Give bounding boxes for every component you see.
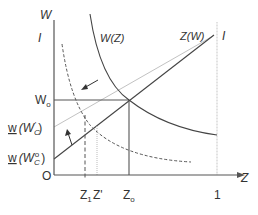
w0-label: Wo (35, 93, 51, 109)
z-of-w-line (54, 35, 214, 159)
z0-label: Zo (123, 188, 135, 204)
one-label: 1 (214, 188, 221, 202)
shift-arrow-up-icon (65, 129, 72, 145)
x-axis-label: Z (240, 171, 249, 185)
w-of-z-label: W(Z) (100, 32, 125, 44)
top-left-marker: I (38, 31, 42, 45)
economics-diagram: W I W(Z) Z(W) I Wo w(WC') w(WCo) O Z1 Z'… (0, 0, 258, 215)
y-axis-label: W (40, 8, 53, 22)
z1-label: Z1 (80, 188, 92, 204)
top-right-marker: I (222, 29, 226, 43)
w-wc0-label: w(WCo) (7, 150, 45, 167)
origin-label: O (42, 169, 51, 183)
shift-arrow-left-icon (81, 80, 98, 90)
shifted-z-of-w-line (54, 36, 213, 127)
zprime-label: Z' (93, 188, 103, 202)
z-of-w-label: Z(W) (179, 30, 205, 42)
w-wc1-label: w(WC') (7, 120, 42, 137)
